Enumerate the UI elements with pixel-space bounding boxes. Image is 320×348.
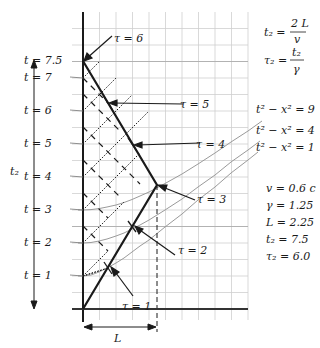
t-label-2: t = 2	[24, 236, 52, 249]
param-v: v = 0.6 c	[266, 182, 316, 195]
tau-label-4: τ = 4	[196, 138, 225, 151]
svg-text:v: v	[294, 33, 301, 46]
param-gamma: γ = 1.25	[266, 199, 313, 212]
t-label-leaders	[70, 77, 83, 276]
tau-label-6: τ = 6	[114, 32, 143, 45]
tau-label-5: τ = 5	[180, 98, 209, 111]
tau-label-3: τ = 3	[197, 193, 226, 206]
hyperbola-k9	[78, 121, 262, 210]
traveler-worldline	[83, 61, 157, 309]
tau-label-1: τ = 1	[122, 300, 151, 313]
svg-text:τ₂ =: τ₂ =	[264, 54, 287, 67]
L-span-arrow	[84, 324, 156, 330]
hyperbola-label-4: t² − x² = 4	[256, 124, 315, 137]
formula-tau2: τ₂ = t₂ γ	[264, 46, 304, 76]
svg-text:t₂: t₂	[292, 46, 301, 59]
t-label-1: t = 1	[24, 269, 52, 282]
tau-labels: τ = 1 τ = 2 τ = 3 τ = 4 τ = 5 τ = 6	[114, 32, 226, 313]
tau-arrows	[84, 36, 200, 296]
hyperbola-label-9: t² − x² = 9	[256, 103, 315, 116]
parameters: v = 0.6 c γ = 1.25 L = 2.25 t₂ = 7.5 τ₂ …	[265, 182, 316, 263]
t2-span-label: t₂	[10, 165, 19, 178]
hyperbola-labels: t² − x² = 9 t² − x² = 4 t² − x² = 1	[256, 103, 315, 154]
t-label-7-5: t = 7.5	[24, 54, 62, 67]
param-t2: t₂ = 7.5	[266, 233, 309, 246]
param-L: L = 2.25	[265, 216, 314, 229]
hyperbola-k4	[78, 141, 260, 243]
hyperbola-label-1: t² − x² = 1	[256, 141, 315, 154]
grid	[72, 12, 248, 320]
svg-text:t₂ =: t₂ =	[264, 26, 286, 39]
param-tau2: τ₂ = 6.0	[266, 250, 310, 263]
t-label-4: t = 4	[24, 170, 52, 183]
formula-t2: t₂ = 2 L v	[264, 17, 309, 46]
svg-text:γ: γ	[293, 63, 300, 76]
L-span-label: L	[113, 332, 121, 345]
spacetime-diagram: t = 1 t = 2 t = 3 t = 4 t = 5 t = 6 t = …	[0, 0, 320, 348]
svg-text:2 L: 2 L	[290, 17, 309, 30]
t-axis-labels: t = 1 t = 2 t = 3 t = 4 t = 5 t = 6 t = …	[24, 54, 62, 282]
t-label-6: t = 6	[24, 104, 52, 117]
t-label-3: t = 3	[24, 203, 52, 216]
t-label-7: t = 7	[24, 71, 52, 84]
hyperbola-k1	[78, 152, 258, 276]
tau-label-2: τ = 2	[178, 244, 207, 257]
t-label-5: t = 5	[24, 137, 52, 150]
